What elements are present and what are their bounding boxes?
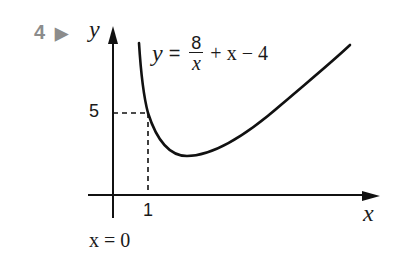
function-equation: y = 8 x + x − 4	[152, 34, 268, 73]
asymptote-label-text: x = 0	[89, 229, 130, 251]
y-tick-5: 5	[89, 101, 99, 122]
y-axis-arrow-icon	[108, 26, 118, 44]
equation-equals: =	[169, 42, 181, 65]
equation-lhs: y	[152, 40, 163, 67]
x-axis-label: x	[363, 200, 374, 227]
asymptote-label: x = 0	[89, 229, 130, 252]
x-tick-1: 1	[143, 200, 153, 221]
equation-rest: + x − 4	[210, 42, 268, 65]
equation-fraction: 8 x	[189, 34, 203, 73]
fraction-numerator: 8	[189, 34, 203, 53]
fraction-denominator: x	[192, 53, 201, 73]
y-axis-label: y	[89, 16, 100, 43]
